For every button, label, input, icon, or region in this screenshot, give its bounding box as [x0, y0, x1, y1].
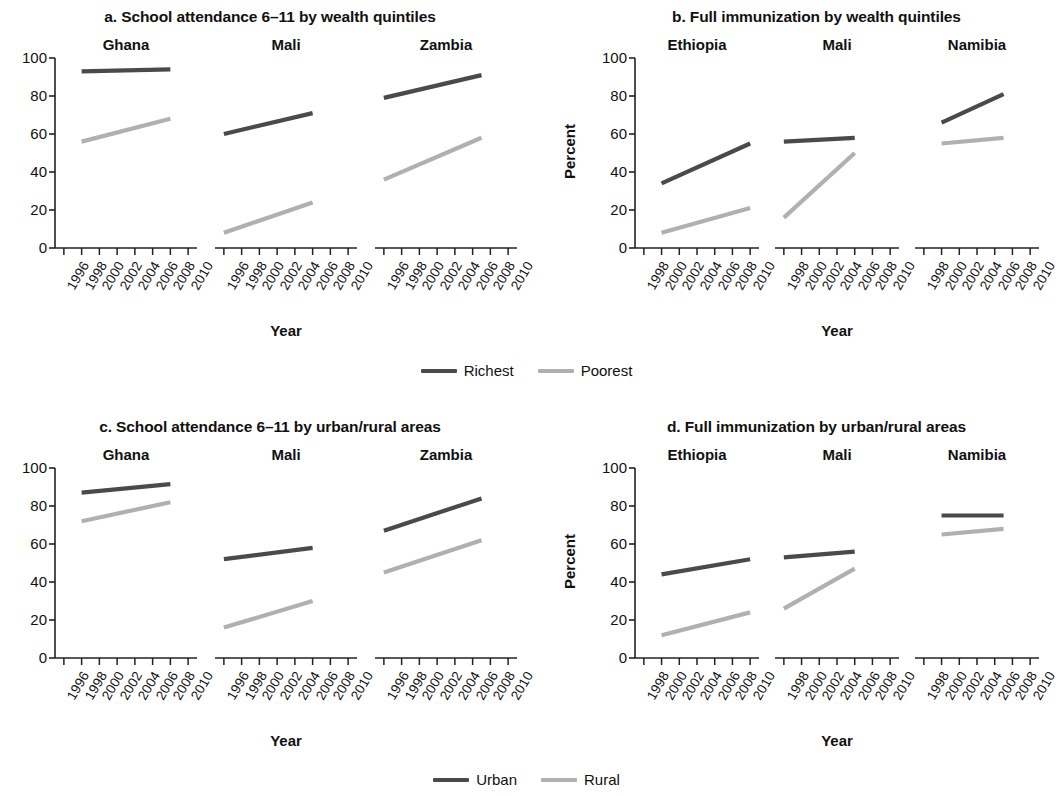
y-axis-tick-label: 100 [591, 49, 627, 66]
legend-item-urban: Urban [433, 771, 517, 788]
legend-item-poorest: Poorest [538, 362, 633, 379]
x-axis-label: Year [775, 322, 899, 339]
chart-panel-a: a. School attendance 6–11 by wealth quin… [0, 8, 540, 358]
country-panel-title: Zambia [375, 36, 517, 53]
country-panel-title: Mali [775, 446, 899, 463]
y-axis-label: Percent [561, 522, 578, 602]
country-panel-title: Mali [775, 36, 899, 53]
y-axis-tick-label: 100 [591, 459, 627, 476]
country-panel-title: Mali [215, 446, 357, 463]
country-panel-title: Namibia [915, 446, 1039, 463]
y-axis-tick-label: 80 [591, 87, 627, 104]
chart-panel-d: d. Full immunization by urban/rural area… [580, 418, 1053, 768]
country-panel-title: Mali [215, 36, 357, 53]
y-axis-tick-label: 60 [11, 535, 47, 552]
legend-label-poorest: Poorest [581, 362, 633, 379]
legend-area: Urban Rural [0, 771, 1053, 788]
plot-area [375, 468, 521, 668]
chart-c-title: c. School attendance 6–11 by urban/rural… [0, 418, 540, 436]
y-axis-tick-label: 0 [11, 649, 47, 666]
y-axis-tick-label: 60 [591, 125, 627, 142]
y-axis-tick-label: 0 [11, 239, 47, 256]
plot-area [635, 468, 763, 668]
y-axis-tick-label: 80 [11, 497, 47, 514]
plot-area [375, 58, 521, 258]
plot-area [215, 58, 361, 258]
legend-item-richest: Richest [421, 362, 514, 379]
chart-d-title: d. Full immunization by urban/rural area… [580, 418, 1053, 436]
chart-a-title: a. School attendance 6–11 by wealth quin… [0, 8, 540, 26]
country-panel-title: Namibia [915, 36, 1039, 53]
y-axis-tick-label: 0 [591, 649, 627, 666]
legend-swatch-poorest [538, 369, 574, 373]
y-axis-tick-label: 20 [591, 201, 627, 218]
y-axis-tick-label: 100 [11, 459, 47, 476]
y-axis-tick-label: 80 [11, 87, 47, 104]
y-axis-tick-label: 60 [11, 125, 47, 142]
legend-swatch-urban [433, 778, 469, 782]
country-panel-title: Zambia [375, 446, 517, 463]
y-axis-tick-label: 20 [11, 201, 47, 218]
x-axis-label: Year [775, 732, 899, 749]
plot-area [55, 468, 201, 668]
legend-label-rural: Rural [584, 771, 620, 788]
plot-area [915, 58, 1043, 258]
plot-area [55, 58, 201, 258]
legend-wealth: Richest Poorest [0, 362, 1053, 379]
y-axis-tick-label: 40 [591, 573, 627, 590]
plot-area [775, 58, 903, 258]
y-axis-tick-label: 20 [11, 611, 47, 628]
legend-item-rural: Rural [541, 771, 620, 788]
chart-panel-b: b. Full immunization by wealth quintiles… [580, 8, 1053, 358]
country-panel-title: Ghana [55, 446, 197, 463]
x-axis-label: Year [215, 732, 357, 749]
y-axis-tick-label: 40 [11, 163, 47, 180]
country-panel-title: Ethiopia [635, 36, 759, 53]
plot-area [915, 468, 1043, 668]
plot-area [775, 468, 903, 668]
y-axis-tick-label: 20 [591, 611, 627, 628]
legend-swatch-richest [421, 369, 457, 373]
x-axis-label: Year [215, 322, 357, 339]
chart-panel-c: c. School attendance 6–11 by urban/rural… [0, 418, 540, 768]
y-axis-tick-label: 60 [591, 535, 627, 552]
country-panel-title: Ethiopia [635, 446, 759, 463]
plot-area [635, 58, 763, 258]
legend-label-richest: Richest [464, 362, 514, 379]
chart-b-title: b. Full immunization by wealth quintiles [580, 8, 1053, 26]
y-axis-tick-label: 40 [591, 163, 627, 180]
legend-swatch-rural [541, 778, 577, 782]
legend-label-urban: Urban [476, 771, 517, 788]
y-axis-tick-label: 0 [591, 239, 627, 256]
y-axis-tick-label: 40 [11, 573, 47, 590]
y-axis-tick-label: 100 [11, 49, 47, 66]
y-axis-tick-label: 80 [591, 497, 627, 514]
country-panel-title: Ghana [55, 36, 197, 53]
plot-area [215, 468, 361, 668]
y-axis-label: Percent [561, 112, 578, 192]
